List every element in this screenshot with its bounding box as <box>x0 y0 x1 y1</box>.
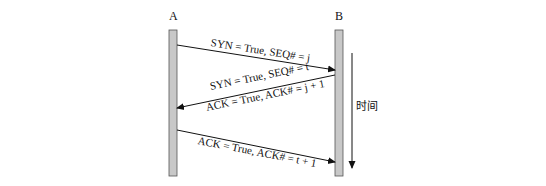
host-b-label: B <box>335 9 343 24</box>
host-b-timeline-bar <box>335 30 343 176</box>
host-a-label: A <box>169 9 178 24</box>
host-a-timeline-bar <box>169 30 177 176</box>
time-axis-label: 时间 <box>356 97 378 113</box>
handshake-diagram: A B SYN = True, SEQ# = j SYN = True, SEQ… <box>0 0 546 186</box>
